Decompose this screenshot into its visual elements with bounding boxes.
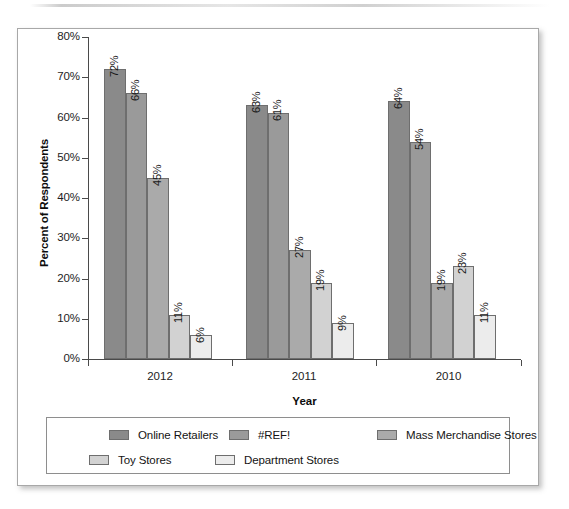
legend-label: Online Retailers bbox=[138, 429, 218, 441]
y-tick-mark bbox=[82, 319, 88, 320]
bar-value-label: 63% bbox=[250, 92, 262, 113]
x-tick-label: 2012 bbox=[100, 370, 220, 382]
legend-label: Mass Merchandise Stores bbox=[406, 429, 537, 441]
y-tick-label: 70% bbox=[34, 70, 80, 82]
bar bbox=[388, 101, 410, 359]
y-axis-title: Percent of Respondents bbox=[38, 103, 50, 303]
bar-value-label: 72% bbox=[108, 56, 120, 77]
plot-area: 0%10%20%30%40%50%60%70%80% Percent of Re… bbox=[18, 29, 540, 487]
chart-card: 0%10%20%30%40%50%60%70%80% Percent of Re… bbox=[17, 28, 539, 486]
legend-swatch-icon bbox=[377, 430, 397, 440]
bar-value-label: 45% bbox=[151, 164, 163, 185]
y-tick-mark bbox=[82, 198, 88, 199]
y-tick-label: 0% bbox=[34, 352, 80, 364]
bar-value-label: 64% bbox=[392, 88, 404, 109]
y-tick-mark bbox=[82, 118, 88, 119]
legend-item[interactable]: #REF! bbox=[229, 422, 290, 448]
bar-value-label: 19% bbox=[314, 269, 326, 290]
legend-label: Department Stores bbox=[244, 454, 339, 466]
bar-value-label: 54% bbox=[413, 128, 425, 149]
legend-label: Toy Stores bbox=[118, 454, 171, 466]
x-tick-mark bbox=[232, 360, 233, 366]
bar bbox=[431, 283, 453, 359]
y-tick-mark bbox=[82, 77, 88, 78]
bar bbox=[104, 69, 126, 359]
legend-row: Toy StoresDepartment Stores bbox=[47, 447, 509, 473]
legend-label: #REF! bbox=[258, 429, 290, 441]
y-axis-line bbox=[88, 37, 89, 360]
bar bbox=[410, 142, 432, 359]
legend-item[interactable]: Toy Stores bbox=[89, 447, 171, 473]
bar-value-label: 9% bbox=[336, 315, 348, 331]
legend-item[interactable]: Mass Merchandise Stores bbox=[377, 422, 537, 448]
y-tick-mark bbox=[82, 238, 88, 239]
legend-item[interactable]: Online Retailers bbox=[109, 422, 218, 448]
legend-swatch-icon bbox=[229, 430, 249, 440]
y-tick-label: 10% bbox=[34, 312, 80, 324]
y-tick-label: 80% bbox=[34, 30, 80, 42]
x-tick-mark bbox=[521, 360, 522, 366]
x-tick-label: 2010 bbox=[389, 370, 509, 382]
bar bbox=[246, 105, 268, 359]
bar bbox=[126, 93, 148, 359]
y-tick-mark bbox=[82, 279, 88, 280]
bar-value-label: 6% bbox=[194, 327, 206, 343]
x-tick-label: 2011 bbox=[244, 370, 364, 382]
bar-value-label: 61% bbox=[271, 100, 283, 121]
bar-value-label: 11% bbox=[172, 302, 184, 323]
bar-value-label: 66% bbox=[129, 80, 141, 101]
bar bbox=[289, 250, 311, 359]
legend-item[interactable]: Department Stores bbox=[215, 447, 339, 473]
x-axis-line bbox=[88, 359, 521, 360]
chart-legend: Online Retailers#REF!Mass Merchandise St… bbox=[46, 417, 510, 474]
bar bbox=[453, 266, 475, 359]
legend-swatch-icon bbox=[89, 455, 109, 465]
bar bbox=[311, 283, 333, 359]
bar bbox=[147, 178, 169, 359]
x-axis-title: Year bbox=[88, 395, 521, 407]
bar-value-label: 19% bbox=[435, 269, 447, 290]
bar bbox=[268, 113, 290, 359]
bar-value-label: 11% bbox=[478, 302, 490, 323]
bar-value-label: 23% bbox=[456, 253, 468, 274]
legend-row: Online Retailers#REF!Mass Merchandise St… bbox=[47, 422, 509, 448]
scan-artifact-line bbox=[30, 4, 550, 7]
legend-swatch-icon bbox=[215, 455, 235, 465]
bar-value-label: 27% bbox=[293, 237, 305, 258]
legend-swatch-icon bbox=[109, 430, 129, 440]
y-tick-mark bbox=[82, 158, 88, 159]
x-tick-mark bbox=[376, 360, 377, 366]
x-tick-mark bbox=[88, 360, 89, 366]
y-tick-mark bbox=[82, 37, 88, 38]
